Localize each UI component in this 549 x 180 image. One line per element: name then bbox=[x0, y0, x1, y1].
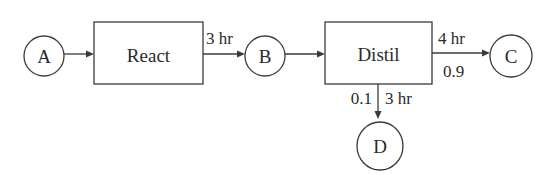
edge-distil-to-d-fraction: 0.1 bbox=[351, 89, 372, 108]
node-c-label: C bbox=[505, 46, 518, 67]
node-distil-label: Distil bbox=[357, 44, 399, 65]
arrowhead-icon bbox=[317, 51, 325, 58]
arrowhead-icon bbox=[237, 51, 245, 58]
edge-b-to-distil bbox=[285, 51, 325, 58]
arrowhead-icon bbox=[482, 50, 490, 57]
node-d-label: D bbox=[373, 136, 387, 157]
node-d: D bbox=[357, 122, 403, 170]
edge-distil-to-c: 4 hr 0.9 bbox=[432, 29, 490, 81]
node-distil: Distil bbox=[325, 22, 432, 84]
process-flow-diagram: A React 3 hr B Distil 4 hr 0.9 C bbox=[0, 0, 549, 180]
edge-react-to-b-time: 3 hr bbox=[206, 29, 233, 48]
edge-distil-to-d: 0.1 3 hr bbox=[351, 84, 413, 119]
node-b-label: B bbox=[259, 46, 272, 67]
node-react: React bbox=[94, 22, 203, 84]
node-a-label: A bbox=[37, 46, 51, 67]
node-b: B bbox=[245, 36, 285, 76]
arrowhead-icon bbox=[375, 111, 382, 119]
edge-a-to-react bbox=[64, 51, 94, 58]
edge-distil-to-d-time: 3 hr bbox=[385, 89, 412, 108]
edge-distil-to-c-time: 4 hr bbox=[438, 29, 465, 48]
node-react-label: React bbox=[127, 45, 171, 66]
node-c: C bbox=[490, 35, 532, 77]
edge-distil-to-c-fraction: 0.9 bbox=[443, 62, 464, 81]
node-a: A bbox=[24, 36, 64, 76]
arrowhead-icon bbox=[86, 51, 94, 58]
edge-react-to-b: 3 hr bbox=[203, 29, 245, 58]
